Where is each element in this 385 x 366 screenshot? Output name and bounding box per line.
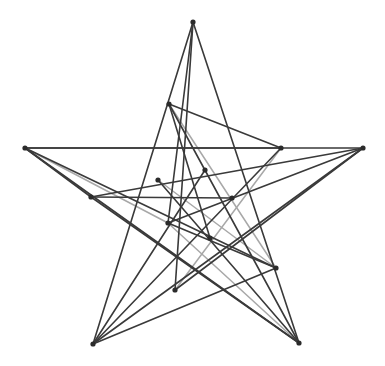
star-line-drawing [0, 0, 385, 366]
vertex-bottom-left-tip [90, 341, 95, 346]
vertex-lower-center [172, 287, 177, 292]
vertex-center-left [155, 177, 160, 182]
vertex-top-tip [190, 19, 195, 24]
vertex-bottom-right-tip [296, 340, 301, 345]
vertex-right-tip [360, 145, 365, 150]
edge-C-G [91, 197, 232, 198]
vertex-mid-inner-left [165, 220, 170, 225]
vertex-left-tip [22, 145, 27, 150]
vertex-upper-inner-left [166, 101, 171, 106]
vertex-center-lower [207, 235, 212, 240]
vertex-center-right [229, 195, 234, 200]
figure-canvas [0, 0, 385, 366]
vertex-center-upper [202, 167, 207, 172]
vertex-lower-inner-right [273, 265, 278, 270]
vertex-left-shoulder [88, 194, 93, 199]
vertex-right-shoulder [278, 145, 283, 150]
